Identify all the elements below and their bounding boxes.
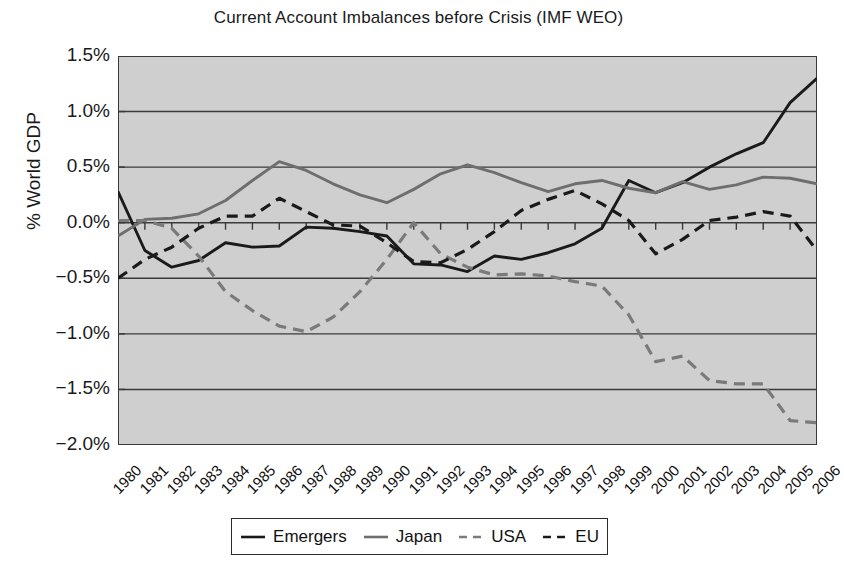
series-line-usa bbox=[118, 220, 817, 422]
y-tick-label: 0.5% bbox=[34, 156, 110, 175]
chart-legend: EmergersJapanUSAEU bbox=[231, 518, 608, 555]
x-tick-label: 1984 bbox=[217, 461, 253, 497]
x-tick-label: 2005 bbox=[781, 461, 817, 497]
y-tick-label: −0.5% bbox=[34, 267, 110, 286]
legend-item-japan[interactable]: Japan bbox=[363, 527, 442, 547]
chart-title: Current Account Imbalances before Crisis… bbox=[0, 8, 837, 28]
x-tick-label: 1994 bbox=[485, 461, 521, 497]
legend-label: EU bbox=[575, 527, 599, 547]
y-tick-label: −1.5% bbox=[34, 378, 110, 397]
legend-swatch-eu bbox=[542, 531, 568, 543]
x-tick-label: 1992 bbox=[432, 461, 468, 497]
x-tick-label: 2004 bbox=[754, 461, 790, 497]
x-tick-label: 1986 bbox=[270, 461, 306, 497]
x-tick-label: 1982 bbox=[163, 461, 199, 497]
series-line-emergers bbox=[118, 78, 817, 271]
y-tick-label: 0.0% bbox=[34, 212, 110, 231]
legend-item-eu[interactable]: EU bbox=[542, 527, 599, 547]
plot-area bbox=[118, 56, 817, 445]
legend-item-emergers[interactable]: Emergers bbox=[240, 527, 347, 547]
x-tick-label: 1996 bbox=[539, 461, 575, 497]
y-tick-label: −1.0% bbox=[34, 323, 110, 342]
legend-label: USA bbox=[491, 527, 526, 547]
x-tick-label: 1987 bbox=[297, 461, 333, 497]
y-tick-label: 1.0% bbox=[34, 101, 110, 120]
x-axis-tick-labels: 1980198119821983198419851986198719881989… bbox=[0, 451, 837, 526]
x-tick-label: 1983 bbox=[190, 461, 226, 497]
legend-label: Japan bbox=[396, 527, 442, 547]
plot-lines bbox=[118, 56, 817, 445]
x-tick-label: 1997 bbox=[566, 461, 602, 497]
legend-swatch-japan bbox=[363, 531, 389, 543]
series-line-eu bbox=[118, 190, 817, 278]
y-tick-label: 1.5% bbox=[34, 45, 110, 64]
x-tick-label: 1990 bbox=[378, 461, 414, 497]
legend-swatch-emergers bbox=[240, 531, 266, 543]
x-tick-label: 1999 bbox=[620, 461, 656, 497]
x-tick-label: 1989 bbox=[351, 461, 387, 497]
legend-label: Emergers bbox=[273, 527, 347, 547]
x-tick-label: 2000 bbox=[647, 461, 683, 497]
x-tick-label: 1998 bbox=[593, 461, 629, 497]
x-tick-label: 1985 bbox=[243, 461, 279, 497]
x-tick-label: 2003 bbox=[727, 461, 763, 497]
x-tick-label: 1995 bbox=[512, 461, 548, 497]
x-tick-label: 1981 bbox=[136, 461, 172, 497]
x-tick-label: 1993 bbox=[459, 461, 495, 497]
x-tick-label: 2002 bbox=[700, 461, 736, 497]
legend-swatch-usa bbox=[458, 531, 484, 543]
legend-item-usa[interactable]: USA bbox=[458, 527, 526, 547]
x-tick-label: 2006 bbox=[808, 461, 844, 497]
x-tick-label: 1988 bbox=[324, 461, 360, 497]
x-tick-label: 1991 bbox=[405, 461, 441, 497]
x-tick-label: 1980 bbox=[109, 461, 145, 497]
